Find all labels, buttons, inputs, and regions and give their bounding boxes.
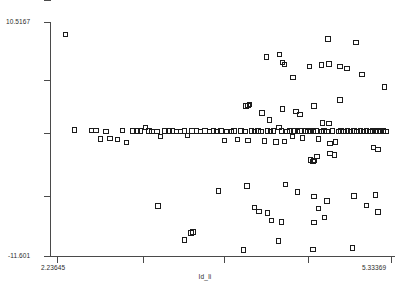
data-point xyxy=(320,120,325,125)
data-point xyxy=(327,141,332,146)
data-point xyxy=(373,192,378,197)
data-point xyxy=(370,128,375,133)
data-point xyxy=(280,106,285,111)
data-point xyxy=(359,72,364,77)
data-point xyxy=(276,238,281,243)
data-point xyxy=(252,129,257,134)
data-point xyxy=(367,129,372,134)
data-point xyxy=(351,193,356,198)
data-point xyxy=(345,128,350,133)
data-point xyxy=(280,60,285,65)
data-point xyxy=(324,129,329,134)
data-point xyxy=(120,128,125,133)
data-point xyxy=(381,128,386,133)
x-axis-tick xyxy=(391,256,392,263)
x-axis-tick xyxy=(224,256,225,263)
data-point xyxy=(364,128,369,133)
data-point xyxy=(277,52,282,57)
data-point xyxy=(327,151,332,156)
data-point xyxy=(265,128,270,133)
y-axis-tick xyxy=(44,133,51,134)
data-point xyxy=(107,136,112,141)
data-point xyxy=(295,129,300,134)
data-point xyxy=(188,230,193,235)
x-axis-tick xyxy=(143,256,144,263)
data-point xyxy=(350,245,355,250)
data-point xyxy=(198,129,203,134)
y-axis-spine xyxy=(50,22,51,256)
data-point xyxy=(190,229,195,234)
y-axis-tick xyxy=(44,256,51,257)
data-point xyxy=(371,145,376,150)
data-point xyxy=(295,189,300,194)
data-point xyxy=(241,247,246,252)
data-point xyxy=(207,129,212,134)
data-point xyxy=(130,128,135,133)
data-point xyxy=(264,54,269,59)
data-point xyxy=(149,129,154,134)
data-point xyxy=(282,62,287,67)
data-point xyxy=(224,129,229,134)
data-point xyxy=(293,109,298,114)
data-point xyxy=(115,137,120,142)
data-point xyxy=(358,128,363,133)
data-point xyxy=(300,135,305,140)
data-point xyxy=(276,125,281,130)
data-point xyxy=(249,128,254,133)
data-point xyxy=(256,209,261,214)
data-point xyxy=(162,128,167,133)
data-point xyxy=(290,75,295,80)
data-point xyxy=(267,117,272,122)
x-axis-title: Id_li xyxy=(0,273,410,280)
data-point xyxy=(324,198,329,203)
data-point xyxy=(271,128,276,133)
data-point xyxy=(375,128,380,133)
data-point xyxy=(182,237,187,242)
data-point xyxy=(252,205,257,210)
data-point xyxy=(297,128,302,133)
data-point xyxy=(283,182,288,187)
data-point xyxy=(337,97,342,102)
data-point xyxy=(326,61,331,66)
data-point xyxy=(63,32,68,37)
data-point xyxy=(211,128,216,133)
x-axis-tick xyxy=(57,256,58,263)
x-axis-tick xyxy=(308,256,309,263)
data-point xyxy=(364,203,369,208)
data-point xyxy=(382,84,387,89)
data-point xyxy=(158,134,163,139)
data-point xyxy=(124,140,129,145)
data-point xyxy=(311,220,316,225)
data-point xyxy=(146,128,151,133)
data-point xyxy=(311,129,316,134)
data-point xyxy=(194,128,199,133)
data-point xyxy=(89,128,94,133)
data-point xyxy=(244,183,249,188)
data-point xyxy=(383,129,388,134)
data-point xyxy=(202,128,207,133)
plot-area xyxy=(0,0,410,299)
data-point xyxy=(93,128,98,133)
data-point xyxy=(143,125,148,130)
data-point xyxy=(310,247,315,252)
data-point xyxy=(178,129,183,134)
data-point xyxy=(316,206,321,211)
data-point xyxy=(268,129,273,134)
x-axis-spine xyxy=(50,256,395,257)
data-point xyxy=(375,209,380,214)
data-point xyxy=(344,66,349,71)
y-axis-tick xyxy=(44,196,51,197)
data-point xyxy=(284,129,289,134)
data-point xyxy=(336,129,341,134)
data-point xyxy=(308,128,313,133)
data-point xyxy=(222,138,227,143)
data-point xyxy=(313,128,318,133)
data-point xyxy=(333,139,338,144)
data-point xyxy=(238,128,243,133)
data-point xyxy=(245,103,250,108)
y-axis-tick xyxy=(44,0,51,1)
data-point xyxy=(297,112,302,117)
data-point xyxy=(154,129,159,134)
data-point xyxy=(265,210,270,215)
data-point xyxy=(330,128,335,133)
